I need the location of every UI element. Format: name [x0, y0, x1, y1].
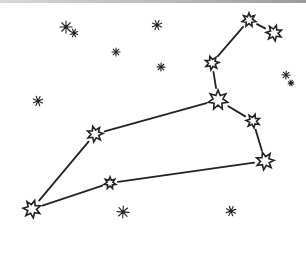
star-icon [104, 177, 116, 188]
star-icon [88, 126, 103, 142]
constellation-line [42, 186, 102, 206]
constellation-line [228, 106, 245, 116]
constellation-line [218, 27, 243, 56]
small-star-icon [157, 63, 165, 71]
small-star-icon [33, 96, 42, 105]
constellation-line [213, 72, 216, 88]
constellation-line [256, 130, 262, 151]
star-icon [205, 56, 218, 70]
small-star-icon [226, 206, 235, 215]
small-star-icon [288, 80, 294, 86]
constellation-lines [39, 24, 265, 205]
small-star-icon [70, 29, 77, 36]
star-icon [23, 200, 40, 218]
star-icon [257, 152, 274, 170]
constellation-line [257, 24, 265, 28]
constellation-illustration [0, 0, 306, 266]
star-icon [266, 25, 281, 41]
constellation-line [105, 103, 207, 131]
small-star-icon [282, 71, 290, 79]
star-icon [246, 114, 259, 128]
star-icon [208, 90, 227, 109]
star-icon [242, 13, 256, 26]
small-star-icon [112, 48, 120, 56]
small-star-icon [152, 20, 161, 29]
constellation-line [118, 163, 254, 182]
small-star-icon [117, 206, 129, 218]
